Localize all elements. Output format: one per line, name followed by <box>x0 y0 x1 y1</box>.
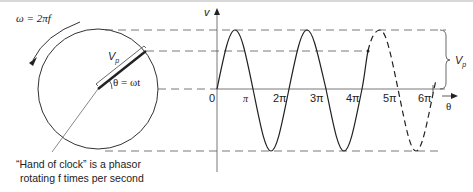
x-axis-label: θ <box>446 100 451 112</box>
sine-wave-solid <box>217 30 368 151</box>
y-axis-arrow-icon <box>214 8 220 15</box>
tick-label-pi: π <box>243 93 249 104</box>
sine-wave-dashed <box>368 30 436 151</box>
y-axis-label: v <box>204 6 211 18</box>
phasor-sine-diagram: ω = 2πf Vp θ = ωt v θ 0 π 2π 3π 4π 5π 6π… <box>0 0 473 192</box>
phasor-extension-line <box>52 89 98 152</box>
brace-vp-label: Vp <box>455 54 466 69</box>
tick-label-4pi: 4π <box>346 92 360 104</box>
angle-label: θ = ωt <box>113 76 140 88</box>
caption-line-1: “Hand of clock” is a phasor <box>16 158 141 170</box>
x-axis-arrow-icon <box>451 93 458 99</box>
tick-label-2pi: 2π <box>273 92 287 104</box>
rotation-arrow-icon <box>33 22 80 60</box>
phasor-vp-label: Vp <box>108 50 119 65</box>
omega-label: ω = 2πf <box>16 12 53 24</box>
tick-label-0: 0 <box>209 92 215 104</box>
tick-label-6pi: 6π <box>418 92 432 104</box>
caption-line-2: rotating f times per second <box>20 172 144 184</box>
vp-brace <box>440 30 450 89</box>
tick-label-5pi: 5π <box>383 92 397 104</box>
rotation-arrowhead-icon <box>29 57 37 66</box>
tick-label-3pi: 3π <box>310 92 324 104</box>
